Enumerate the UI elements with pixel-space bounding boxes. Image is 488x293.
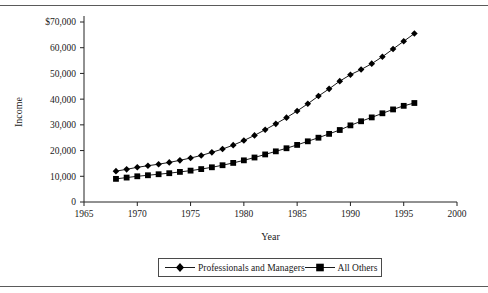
data-point-marker (198, 166, 204, 172)
y-axis-title: Income (13, 96, 24, 127)
data-point-marker (187, 155, 194, 162)
x-axis-tick-label: 2000 (448, 209, 467, 219)
x-axis-tick-label: 1985 (288, 209, 307, 219)
x-axis-tick-label: 1990 (341, 209, 360, 219)
data-point-marker (145, 172, 151, 178)
line-chart: 010,00020,00030,00040,00050,00060,000$70… (0, 8, 488, 253)
diamond-marker-icon (165, 262, 195, 273)
figure-bottom-rule (0, 286, 488, 287)
data-point-marker (155, 161, 162, 168)
data-point-marker (390, 107, 396, 113)
y-axis-tick-label: 0 (71, 197, 76, 207)
x-axis-tick-label: 1975 (181, 209, 200, 219)
data-point-marker (219, 146, 226, 153)
data-point-marker (380, 110, 386, 116)
data-point-marker (209, 149, 216, 156)
x-axis-tick-label: 1965 (75, 209, 94, 219)
y-axis-tick-label: 40,000 (50, 95, 76, 105)
x-axis-title: Year (261, 231, 280, 242)
data-point-marker (284, 145, 290, 151)
data-point-marker (209, 164, 215, 170)
data-point-marker (113, 168, 120, 175)
data-point-marker (177, 169, 183, 175)
data-point-marker (241, 157, 247, 163)
data-point-marker (156, 171, 162, 177)
y-axis-tick-label: 20,000 (50, 146, 76, 156)
data-point-marker (230, 160, 236, 166)
data-point-marker (123, 166, 130, 173)
data-point-marker (294, 142, 300, 148)
data-point-marker (134, 173, 140, 179)
y-axis: 010,00020,00030,00040,00050,00060,000$70… (45, 16, 84, 207)
legend-item-all-others: All Others (305, 262, 378, 273)
data-point-marker (337, 127, 343, 133)
y-axis-tick-label: 10,000 (50, 172, 76, 182)
data-point-marker (166, 159, 173, 166)
data-point-marker (401, 103, 407, 109)
data-point-marker (283, 114, 290, 121)
legend-label-professionals-and-managers: Professionals and Managers (198, 263, 305, 273)
data-point-marker (145, 162, 152, 169)
chart-legend: Professionals and Managers All Others (158, 258, 382, 277)
y-axis-tick-label: 30,000 (50, 120, 76, 130)
data-point-marker (305, 100, 312, 107)
data-point-marker (348, 122, 354, 128)
data-point-marker (358, 118, 364, 124)
data-point-marker (177, 157, 184, 164)
data-point-marker (368, 60, 375, 67)
legend-label-all-others: All Others (338, 263, 378, 273)
data-point-marker (166, 170, 172, 176)
data-point-marker (262, 126, 269, 133)
data-point-marker (230, 142, 237, 149)
y-axis-tick-label: 50,000 (50, 69, 76, 79)
data-point-marker (188, 168, 194, 174)
x-axis-tick-label: 1995 (394, 209, 413, 219)
data-point-marker (305, 138, 311, 144)
data-point-marker (262, 152, 268, 158)
figure-top-rule (0, 5, 488, 6)
square-marker-icon (305, 262, 335, 273)
data-point-marker (273, 148, 279, 154)
data-point-marker (113, 176, 119, 182)
chart-series-2 (113, 100, 417, 182)
data-point-marker (315, 93, 322, 100)
data-point-marker (294, 108, 301, 115)
data-point-marker (347, 71, 354, 78)
chart-series-group (113, 30, 418, 181)
data-point-marker (241, 137, 248, 144)
data-point-marker (273, 121, 280, 128)
data-point-marker (134, 164, 141, 171)
data-point-marker (411, 100, 417, 106)
data-point-marker (369, 115, 375, 121)
data-point-marker (198, 152, 205, 159)
y-axis-tick-label: $70,000 (45, 17, 76, 27)
x-axis-tick-label: 1980 (234, 209, 253, 219)
data-point-marker (326, 131, 332, 137)
data-point-marker (390, 46, 397, 53)
data-point-marker (326, 86, 333, 93)
data-point-marker (336, 78, 343, 85)
legend-item-professionals-and-managers: Professionals and Managers (165, 262, 305, 273)
data-point-marker (411, 30, 418, 37)
data-point-marker (316, 135, 322, 141)
data-point-marker (358, 66, 365, 73)
data-point-marker (124, 175, 130, 181)
x-axis: 19651970197519801985199019952000 (75, 202, 467, 219)
data-point-marker (220, 162, 226, 168)
data-point-marker (251, 132, 258, 139)
y-axis-tick-label: 60,000 (50, 43, 76, 53)
figure-container: 010,00020,00030,00040,00050,00060,000$70… (0, 0, 488, 293)
data-point-marker (400, 38, 407, 45)
data-point-marker (379, 53, 386, 60)
data-point-marker (252, 155, 258, 161)
x-axis-tick-label: 1970 (128, 209, 147, 219)
